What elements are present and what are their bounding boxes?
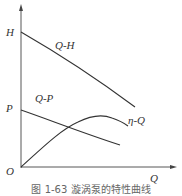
qh-curve-label: Q-H: [55, 40, 75, 51]
eta-q-curve: [21, 116, 128, 167]
characteristic-curves-chart: [0, 0, 182, 196]
x-axis-arrow-icon: [170, 165, 177, 169]
figure-caption: 图 1-63 漩涡泵的特性曲线: [0, 185, 182, 195]
origin-label: O: [6, 166, 14, 177]
x-axis-label: Q: [150, 173, 158, 184]
y-axis-arrow-icon: [19, 4, 23, 11]
eta-q-curve-label: η-Q: [128, 115, 145, 126]
p-axis-label: P: [6, 103, 13, 114]
h-axis-label: H: [6, 27, 14, 38]
qp-curve-label: Q-P: [35, 93, 53, 104]
qp-curve: [21, 110, 120, 145]
